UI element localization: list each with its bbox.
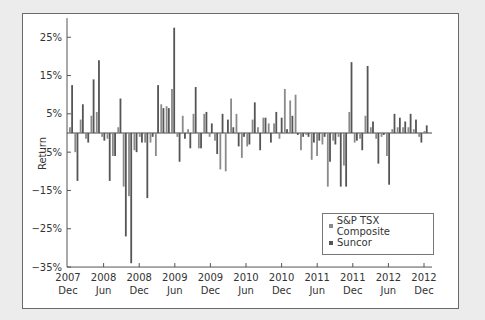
bar-suncor: [71, 85, 73, 133]
bar-suncor: [77, 133, 79, 181]
bar-tsx: [236, 114, 238, 133]
bar-suncor: [383, 133, 385, 135]
bar-tsx: [354, 133, 356, 143]
bar-suncor: [270, 133, 272, 143]
y-tick-label: −35%: [31, 262, 62, 273]
bar-suncor: [227, 120, 229, 133]
bar-tsx: [316, 133, 318, 156]
bar-tsx: [295, 95, 297, 133]
x-tick-month: Dec: [58, 285, 77, 296]
bar-suncor: [388, 133, 390, 185]
bar-tsx: [171, 89, 173, 133]
y-tick-label: −15%: [31, 185, 62, 196]
bar-suncor: [136, 133, 138, 152]
bar-tsx: [123, 133, 125, 187]
bar-suncor: [120, 99, 122, 133]
bar-chart: 25%15%5%−5%−15%−25%−35%2007Dec2008Jun200…: [0, 0, 485, 320]
bar-suncor: [206, 112, 208, 133]
bar-tsx: [198, 133, 200, 148]
bar-suncor: [232, 127, 234, 133]
x-tick-month: Dec: [272, 285, 291, 296]
bar-tsx: [107, 133, 109, 139]
bar-suncor: [98, 60, 100, 133]
bar-suncor: [351, 62, 353, 133]
bar-tsx: [262, 118, 264, 133]
bar-suncor: [404, 122, 406, 133]
bar-suncor: [195, 87, 197, 133]
bar-tsx: [117, 127, 119, 133]
bar-suncor: [426, 125, 428, 133]
bar-tsx: [241, 133, 243, 158]
bar-suncor: [82, 104, 84, 133]
legend-swatch-tsx: [329, 224, 333, 228]
bar-tsx: [144, 133, 146, 143]
x-tick-month: Jun: [166, 285, 183, 296]
bar-tsx: [155, 133, 157, 156]
bar-suncor: [114, 133, 116, 156]
x-tick-year: 2009: [162, 272, 187, 283]
bar-tsx: [375, 133, 377, 139]
bar-tsx: [69, 127, 71, 133]
bar-suncor: [420, 133, 422, 143]
bar-suncor: [265, 118, 267, 133]
bar-suncor: [291, 116, 293, 133]
bar-suncor: [415, 120, 417, 133]
bar-tsx: [273, 123, 275, 133]
bar-tsx: [128, 133, 130, 196]
bar-suncor: [318, 133, 320, 141]
bar-tsx: [322, 133, 324, 144]
bar-tsx: [408, 127, 410, 133]
x-tick-year: 2012: [376, 272, 401, 283]
bar-tsx: [133, 133, 135, 150]
legend-label-tsx: S&P TSX Composite: [337, 215, 427, 237]
x-tick-year: 2012: [411, 272, 436, 283]
bar-tsx: [305, 133, 307, 135]
bar-suncor: [173, 28, 175, 133]
bar-tsx: [359, 133, 361, 139]
bar-suncor: [340, 133, 342, 187]
x-tick-month: Dec: [343, 285, 362, 296]
x-tick-month: Jun: [237, 285, 254, 296]
bar-tsx: [391, 129, 393, 133]
x-tick-month: Dec: [130, 285, 149, 296]
bar-tsx: [166, 106, 168, 133]
bar-suncor: [200, 133, 202, 148]
bar-tsx: [90, 116, 92, 133]
bar-suncor: [238, 133, 240, 146]
bar-suncor: [93, 79, 95, 133]
bar-suncor: [399, 118, 401, 133]
bar-suncor: [168, 108, 170, 133]
bar-tsx: [150, 133, 152, 143]
bar-tsx: [214, 133, 216, 141]
bar-suncor: [297, 133, 299, 135]
bar-suncor: [184, 133, 186, 139]
bar-tsx: [332, 133, 334, 141]
bar-tsx: [193, 114, 195, 133]
bar-tsx: [311, 133, 313, 160]
bar-suncor: [103, 133, 105, 141]
bar-suncor: [394, 114, 396, 133]
x-tick-month: Jun: [95, 285, 112, 296]
bar-tsx: [209, 133, 211, 137]
bar-tsx: [381, 133, 383, 137]
bar-suncor: [243, 133, 245, 137]
legend-item-suncor: Suncor: [329, 234, 427, 251]
legend-label-suncor: Suncor: [337, 237, 372, 248]
bar-suncor: [334, 133, 336, 144]
bar-suncor: [367, 66, 369, 133]
bar-tsx: [139, 133, 141, 137]
bar-suncor: [87, 133, 89, 143]
x-tick-year: 2008: [126, 272, 151, 283]
y-tick-label: −25%: [31, 223, 62, 234]
bar-tsx: [418, 133, 420, 137]
bar-suncor: [141, 133, 143, 143]
legend: S&P TSX Composite Suncor: [322, 213, 434, 255]
x-tick-month: Jun: [380, 285, 397, 296]
bar-tsx: [252, 120, 254, 133]
bar-tsx: [225, 133, 227, 171]
bar-tsx: [289, 100, 291, 133]
y-tick-label: 5%: [46, 108, 62, 119]
bar-tsx: [182, 116, 184, 133]
bar-tsx: [80, 120, 82, 133]
bar-tsx: [348, 112, 350, 133]
